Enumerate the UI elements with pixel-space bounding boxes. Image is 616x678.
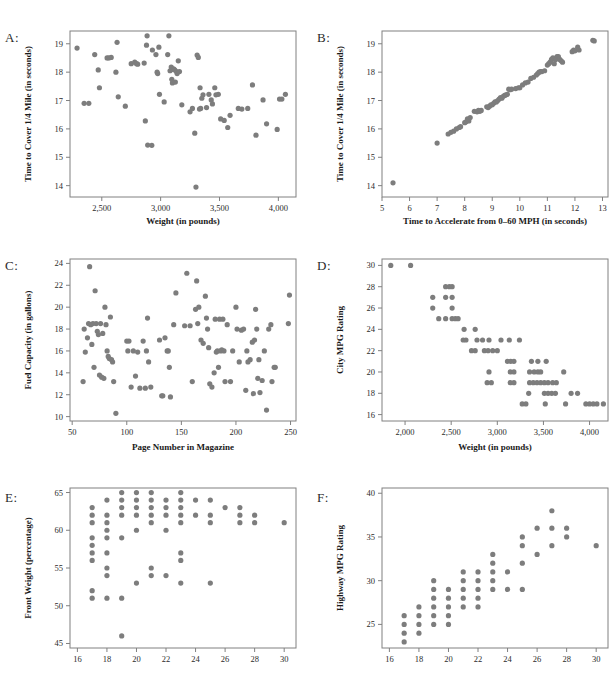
data-point: [560, 60, 565, 65]
data-point: [461, 604, 466, 609]
data-point: [416, 622, 421, 627]
data-point: [454, 126, 459, 131]
data-point: [453, 316, 458, 321]
y-tick-label: 30: [367, 576, 376, 586]
x-tick-label: 4,000: [269, 203, 288, 213]
y-axis-title: Front Weight (percentage): [23, 517, 33, 618]
data-point: [431, 596, 436, 601]
data-point: [485, 348, 490, 353]
data-point: [149, 490, 154, 495]
data-point: [119, 497, 124, 502]
data-point: [220, 317, 225, 322]
data-point: [277, 97, 282, 102]
data-point: [82, 326, 87, 331]
data-point: [594, 401, 599, 406]
data-point: [237, 505, 242, 510]
data-point: [431, 587, 436, 592]
data-point: [253, 307, 258, 312]
data-point: [490, 102, 495, 107]
data-point: [106, 354, 111, 359]
data-point: [486, 105, 491, 110]
data-point: [129, 384, 134, 389]
data-point: [163, 497, 168, 502]
data-point: [520, 401, 525, 406]
y-tick-label: 22: [367, 346, 376, 356]
panel-letter-4: D:: [317, 258, 331, 274]
data-point: [145, 33, 150, 38]
data-point: [172, 67, 177, 72]
figure-sheet: A:2,5003,0003,5004,000141516171819Weight…: [0, 0, 616, 678]
data-point: [169, 64, 174, 69]
data-point: [141, 338, 146, 343]
data-point: [104, 535, 109, 540]
data-point: [241, 326, 246, 331]
data-point: [287, 293, 292, 298]
data-point: [587, 401, 592, 406]
data-point: [96, 67, 101, 72]
data-point: [209, 97, 214, 102]
panel-letter-1: A:: [5, 30, 19, 46]
data-point: [525, 79, 530, 84]
x-tick-label: 5: [380, 203, 384, 213]
data-point: [124, 338, 129, 343]
data-point: [218, 116, 223, 121]
data-point: [133, 374, 138, 379]
y-tick-label: 16: [55, 124, 64, 134]
data-point: [95, 329, 100, 334]
data-point: [443, 284, 448, 289]
data-point: [462, 327, 467, 332]
data-point: [474, 109, 479, 114]
data-point: [482, 348, 487, 353]
data-point: [416, 604, 421, 609]
data-point: [166, 33, 171, 38]
x-axis-title: Page Number in Magazine: [132, 442, 234, 452]
data-point: [119, 490, 124, 495]
data-point: [208, 580, 213, 585]
data-point: [531, 75, 536, 80]
data-point: [179, 102, 184, 107]
data-point: [188, 323, 193, 328]
data-point: [168, 394, 173, 399]
data-point: [260, 378, 265, 383]
data-point: [511, 369, 516, 374]
data-point: [149, 520, 154, 525]
data-point: [475, 587, 480, 592]
data-point: [279, 97, 284, 102]
data-point: [569, 391, 574, 396]
data-point: [283, 92, 288, 97]
data-point: [447, 284, 452, 289]
data-point: [282, 520, 287, 525]
x-tick-label: 22: [162, 654, 171, 664]
x-axis-title: Weight (in pounds): [458, 442, 532, 452]
data-point: [456, 316, 461, 321]
data-point: [505, 569, 510, 574]
data-point: [218, 348, 223, 353]
data-point: [443, 316, 448, 321]
data-point: [134, 513, 139, 518]
x-tick-label: 26: [533, 654, 542, 664]
data-point: [207, 381, 212, 386]
data-point: [165, 52, 170, 57]
data-point: [201, 341, 206, 346]
data-point: [402, 622, 407, 627]
data-point: [286, 321, 291, 326]
data-point: [111, 379, 116, 384]
y-tick-label: 28: [367, 282, 376, 292]
data-point: [153, 52, 158, 57]
data-point: [495, 98, 500, 103]
data-point: [135, 349, 140, 354]
data-point: [542, 380, 547, 385]
data-point: [171, 322, 176, 327]
plot-frame: [382, 31, 608, 197]
data-point: [529, 359, 534, 364]
data-point: [502, 93, 507, 98]
data-point: [542, 391, 547, 396]
data-point: [527, 369, 532, 374]
data-point: [463, 337, 468, 342]
data-point: [450, 305, 455, 310]
data-point: [503, 92, 508, 97]
data-point: [104, 528, 109, 533]
x-tick-label: 12: [571, 203, 580, 213]
data-point: [505, 359, 510, 364]
data-point: [135, 62, 140, 67]
